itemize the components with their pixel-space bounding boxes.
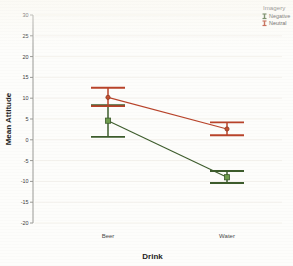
y-axis-tick-label: -10 (21, 178, 29, 184)
chart-canvas: 302520151050-5-10-15-20BeerWaterMean Att… (0, 0, 293, 266)
data-point-negative-water (224, 175, 229, 180)
legend-title: Imagery (263, 4, 286, 11)
y-axis-tick-label: 5 (26, 116, 29, 122)
legend-item-negative[interactable]: Negative (263, 13, 291, 19)
legend-item-neutral[interactable]: Neutral (263, 20, 287, 26)
y-axis-tick-label: 10 (23, 95, 29, 101)
series-line-negative (108, 121, 227, 178)
error-bar-chart: 302520151050-5-10-15-20BeerWaterMean Att… (0, 0, 293, 266)
y-axis-tick-label: -15 (21, 199, 29, 205)
x-axis-tick-label: Beer (102, 233, 115, 239)
x-axis-title: Drink (142, 252, 163, 261)
y-axis-tick-label: 0 (26, 137, 29, 143)
y-axis-tick-label: -5 (24, 158, 29, 164)
y-axis-tick-label: -20 (21, 220, 29, 226)
series-line-neutral (108, 97, 227, 129)
x-axis-tick-label: Water (219, 233, 235, 239)
data-point-neutral-water (225, 127, 229, 131)
y-axis-tick-label: 30 (23, 12, 29, 18)
y-axis-tick-label: 25 (23, 33, 29, 39)
y-axis-title: Mean Attitude (4, 92, 13, 145)
y-axis-tick-label: 15 (23, 74, 29, 80)
y-axis-tick-label: 20 (23, 54, 29, 60)
data-point-neutral-beer (106, 95, 110, 99)
data-point-negative-beer (105, 118, 110, 123)
legend-label: Neutral (269, 20, 286, 26)
legend-label: Negative (269, 13, 290, 19)
